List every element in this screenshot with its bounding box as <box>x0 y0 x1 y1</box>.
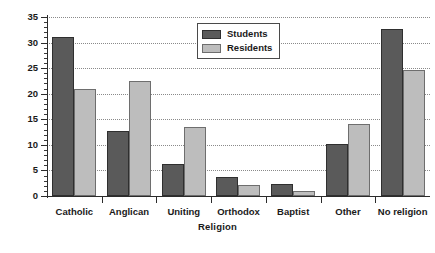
y-tick-minor <box>44 58 48 59</box>
x-tick <box>321 196 322 203</box>
x-tick <box>156 196 157 203</box>
x-tick-label: Anglican <box>109 205 149 218</box>
bar-group <box>102 17 157 196</box>
bar-students-orthodox <box>216 177 238 196</box>
y-tick-major <box>41 17 47 18</box>
bar-residents-orthodox <box>238 185 260 196</box>
x-tick <box>211 196 212 203</box>
x-tick-label: Orthodox <box>217 205 260 218</box>
bar-residents-anglican <box>129 81 151 196</box>
bar-students-anglican <box>107 131 129 196</box>
y-tick-label: 5 <box>12 165 38 175</box>
y-tick-label: 30 <box>12 38 38 48</box>
legend-swatch-students-icon <box>202 30 221 39</box>
y-tick-major <box>41 94 47 95</box>
y-tick-minor <box>44 150 48 151</box>
y-tick-minor <box>44 73 48 74</box>
y-tick-minor <box>44 160 48 161</box>
y-tick-minor <box>44 135 48 136</box>
legend-item-residents: Residents <box>202 41 272 55</box>
x-tick <box>102 196 103 203</box>
y-tick-minor <box>44 109 48 110</box>
bar-students-no-religion <box>381 29 403 196</box>
y-tick-label: 25 <box>12 63 38 73</box>
y-tick-minor <box>44 165 48 166</box>
y-tick-minor <box>44 22 48 23</box>
x-tick-label: Uniting <box>167 205 200 218</box>
y-tick-minor <box>44 48 48 49</box>
bar-group <box>47 17 102 196</box>
x-tick <box>266 196 267 203</box>
x-tick-label: Catholic <box>56 205 93 218</box>
y-tick-minor <box>44 37 48 38</box>
x-tick <box>375 196 376 203</box>
legend: Students Residents <box>197 23 280 59</box>
y-tick-minor <box>44 89 48 90</box>
y-tick-minor <box>44 176 48 177</box>
y-axis-line <box>47 15 48 198</box>
y-tick-minor <box>44 155 48 156</box>
y-tick-major <box>41 43 47 44</box>
x-axis-ticks <box>47 196 430 203</box>
bar-group <box>321 17 376 196</box>
y-tick-label: 10 <box>12 140 38 150</box>
y-tick-minor <box>44 124 48 125</box>
y-tick-label: 15 <box>12 114 38 124</box>
y-tick-minor <box>44 27 48 28</box>
bar-students-baptist <box>271 184 293 196</box>
y-tick-minor <box>44 140 48 141</box>
y-tick-minor <box>44 99 48 100</box>
y-tick-major <box>41 145 47 146</box>
y-tick-minor <box>44 83 48 84</box>
y-tick-major <box>41 119 47 120</box>
bar-students-catholic <box>52 37 74 196</box>
legend-label-students: Students <box>227 28 268 40</box>
y-tick-major <box>41 68 47 69</box>
bar-students-uniting <box>162 164 184 196</box>
y-tick-label: 20 <box>12 89 38 99</box>
y-tick-minor <box>44 104 48 105</box>
legend-label-residents: Residents <box>227 42 272 54</box>
x-tick-label: Other <box>335 205 360 218</box>
legend-swatch-residents-icon <box>202 44 221 53</box>
bar-group <box>375 17 430 196</box>
bar-chart: Percentages 05101520253035 CatholicAngli… <box>0 0 435 253</box>
y-tick-minor <box>44 186 48 187</box>
x-tick-label: Baptist <box>277 205 309 218</box>
x-tick-label: No religion <box>378 205 428 218</box>
y-tick-minor <box>44 191 48 192</box>
y-tick-label: 0 <box>12 191 38 201</box>
bar-residents-other <box>348 124 370 196</box>
bar-residents-uniting <box>184 127 206 196</box>
bar-residents-catholic <box>74 89 96 196</box>
x-axis-tick-labels: CatholicAnglicanUnitingOrthodoxBaptistOt… <box>47 205 430 219</box>
x-axis-title: Religion <box>0 221 435 232</box>
y-tick-minor <box>44 130 48 131</box>
y-tick-label: 35 <box>12 12 38 22</box>
y-tick-minor <box>44 63 48 64</box>
y-tick-minor <box>44 32 48 33</box>
y-axis-tick-labels: 05101520253035 <box>8 17 38 196</box>
y-axis-ticks <box>39 17 47 196</box>
y-tick-minor <box>44 114 48 115</box>
y-tick-minor <box>44 78 48 79</box>
y-tick-minor <box>44 53 48 54</box>
bar-students-other <box>326 144 348 196</box>
y-tick-major <box>41 170 47 171</box>
bar-residents-no-religion <box>403 70 425 196</box>
y-tick-minor <box>44 181 48 182</box>
legend-item-students: Students <box>202 27 272 41</box>
